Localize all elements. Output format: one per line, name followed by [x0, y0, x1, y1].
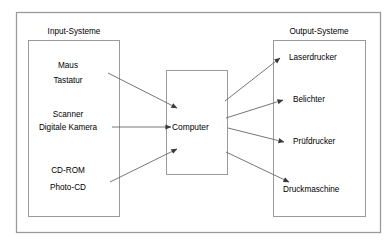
connector-computer-to-pruefdrucker: [228, 128, 284, 142]
output-panel-title: Output-Systeme: [289, 28, 348, 36]
input-item-cd-rom: CD-ROM: [51, 167, 85, 175]
input-item-maus: Maus: [58, 62, 78, 70]
input-item-scanner: Scanner: [53, 111, 84, 119]
input-panel-title: Input-Systeme: [48, 28, 101, 36]
diagram-canvas: Input-Systeme Output-Systeme Maus Tastat…: [0, 0, 391, 246]
input-item-digitale-kamera: Digitale Kamera: [39, 124, 97, 132]
connector-computer-to-druckmaschine: [226, 152, 289, 182]
input-item-photo-cd: Photo-CD: [50, 184, 86, 192]
computer-label: Computer: [172, 123, 209, 131]
output-item-druckmaschine: Druckmaschine: [283, 186, 339, 194]
input-item-tastatur: Tastatur: [53, 77, 82, 85]
output-item-laserdrucker: Laserdrucker: [289, 54, 337, 62]
output-item-belichter: Belichter: [293, 96, 325, 104]
connector-computer-to-belichter: [226, 100, 283, 118]
connector-computer-to-laserdrucker: [225, 58, 280, 101]
output-item-pruefdrucker: Prüfdrucker: [293, 138, 335, 146]
